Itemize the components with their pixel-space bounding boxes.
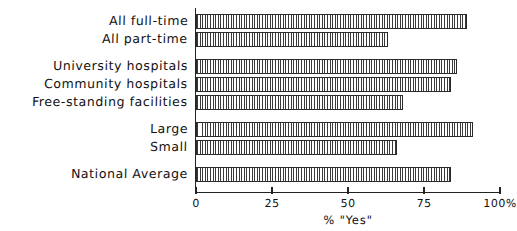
category-label-large: Large [150,123,188,136]
bar-all-part-time [196,32,388,47]
category-label-university-hospitals: University hospitals [53,60,188,73]
x-tick-label-0: 0 [192,197,200,210]
plot-area: 0 25 50 75 100% % "Yes" [196,8,500,193]
x-axis-title: % "Yes" [323,213,373,227]
bar-small [196,140,397,155]
bar-all-full-time [196,14,467,29]
category-label-free-standing-facilities: Free-standing facilities [32,96,188,109]
x-tick-label-25: 25 [264,197,279,210]
bar-national-average [196,167,451,182]
x-tick-label-75: 75 [416,197,431,210]
category-label-all-part-time: All part-time [102,33,188,46]
x-tick-label-100: 100% [483,197,517,210]
bar-chart: All full-time All part-time University h… [0,0,517,231]
bar-large [196,122,473,137]
bar-university-hospitals [196,59,457,74]
category-label-national-average: National Average [71,168,188,181]
category-label-small: Small [150,141,188,154]
bar-community-hospitals [196,77,451,92]
x-tick-75 [423,187,424,194]
x-tick-100 [499,187,500,194]
x-tick-50 [347,187,348,194]
bar-free-standing-facilities [196,95,403,110]
category-label-all-full-time: All full-time [109,15,189,28]
x-tick-0 [195,187,196,194]
category-label-community-hospitals: Community hospitals [44,78,188,91]
x-tick-25 [271,187,272,194]
x-tick-label-50: 50 [340,197,355,210]
